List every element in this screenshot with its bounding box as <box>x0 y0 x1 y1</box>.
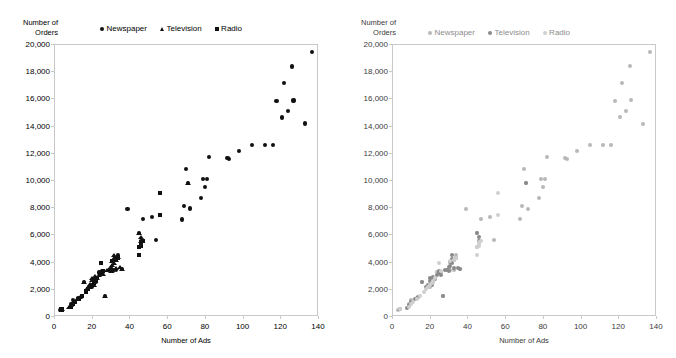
y-axis-tick <box>51 126 54 127</box>
data-point-circle <box>154 238 158 242</box>
x-axis-tick <box>54 316 55 319</box>
data-point-square <box>141 239 145 243</box>
data-point-square <box>95 276 99 280</box>
data-point-circle <box>439 273 443 277</box>
data-point-circle <box>274 99 278 103</box>
data-point-circle <box>458 267 462 271</box>
x-axis-tick <box>656 316 657 319</box>
data-point-triangle <box>102 294 108 298</box>
x-axis-tick <box>505 316 506 319</box>
data-point-circle <box>280 115 284 119</box>
data-point-circle <box>575 149 579 153</box>
data-point-circle <box>207 155 211 159</box>
y-axis-tick-label: 2,000 <box>30 284 50 293</box>
legend-item-radio[interactable]: Radio <box>215 24 242 33</box>
x-axis-tick <box>280 316 281 319</box>
x-axis-tick <box>167 316 168 319</box>
y-axis-tick <box>389 126 392 127</box>
y-axis-tick-label: 20,000 <box>364 40 388 49</box>
x-axis-title: Number of Ads <box>161 336 211 345</box>
data-point-circle <box>141 217 145 221</box>
legend-item-newspaper[interactable]: Newspaper <box>428 28 475 37</box>
data-point-circle <box>541 185 545 189</box>
x-axis-tick-label: 20 <box>87 322 96 331</box>
data-point-circle <box>180 217 184 221</box>
x-axis-tick <box>543 316 544 319</box>
data-point-circle <box>479 239 483 243</box>
y-axis-tick-label: 10,000 <box>364 176 388 185</box>
data-point-square <box>158 213 162 217</box>
y-axis-tick <box>51 44 54 45</box>
data-point-circle <box>496 191 500 195</box>
x-axis-tick <box>243 316 244 319</box>
x-axis-tick-label: 120 <box>274 322 287 331</box>
y-axis-tick <box>51 180 54 181</box>
data-point-square <box>137 253 141 257</box>
data-point-circle <box>526 207 530 211</box>
data-point-circle <box>188 206 192 210</box>
data-point-circle <box>620 81 624 85</box>
y-axis-title: Number of Orders <box>344 18 396 37</box>
y-axis-tick-label: 4,000 <box>368 257 388 266</box>
x-axis-tick-label: 20 <box>425 322 434 331</box>
legend-item-television[interactable]: Television <box>160 24 202 33</box>
data-point-circle <box>291 98 295 102</box>
circle-marker-icon <box>488 31 492 35</box>
y-axis-title: Number of Orders <box>6 18 58 37</box>
legend-label-television: Television <box>494 28 529 37</box>
y-axis-tick <box>51 289 54 290</box>
data-point-square <box>80 294 84 298</box>
x-axis-tick <box>129 316 130 319</box>
right-chart-panel: Number of Orders Newspaper Television Ra… <box>338 0 676 358</box>
y-axis-tick <box>51 234 54 235</box>
legend-label-television: Television <box>166 24 201 33</box>
data-point-square <box>99 261 103 265</box>
y-axis-tick-label: 8,000 <box>30 203 50 212</box>
legend-label-radio: Radio <box>221 24 242 33</box>
figure-root: Number of Orders Newspaper Television Ra… <box>0 0 676 358</box>
data-point-square <box>59 307 63 311</box>
scatter-plot-area[interactable] <box>54 44 318 316</box>
data-point-circle <box>496 213 500 217</box>
x-axis-tick-label: 40 <box>463 322 472 331</box>
data-point-circle <box>303 121 307 125</box>
y-axis-tick <box>389 234 392 235</box>
legend-item-television[interactable]: Television <box>488 28 530 37</box>
y-axis-tick-label: 18,000 <box>364 67 388 76</box>
data-point-circle <box>492 238 496 242</box>
data-point-circle <box>520 204 524 208</box>
legend-item-radio[interactable]: Radio <box>543 28 570 37</box>
y-axis-tick <box>389 180 392 181</box>
x-axis-tick <box>467 316 468 319</box>
y-axis-tick <box>389 289 392 290</box>
data-point-circle <box>613 99 617 103</box>
data-point-square <box>101 269 105 273</box>
data-point-circle <box>203 185 207 189</box>
x-axis-tick-label: 140 <box>311 322 324 331</box>
x-axis-title: Number of Ads <box>499 336 549 345</box>
y-axis-tick-label: 6,000 <box>368 230 388 239</box>
x-axis-tick <box>581 316 582 319</box>
data-point-circle <box>418 294 422 298</box>
left-chart-panel: Number of Orders Newspaper Television Ra… <box>0 0 338 358</box>
y-axis-tick <box>51 262 54 263</box>
data-point-circle <box>475 253 479 257</box>
y-axis-tick <box>389 207 392 208</box>
data-point-circle <box>415 297 419 301</box>
triangle-marker-icon <box>160 27 164 31</box>
y-axis-tick-label: 0 <box>46 312 50 321</box>
scatter-plot-area[interactable] <box>392 44 656 316</box>
data-point-circle <box>290 64 294 68</box>
y-axis-tick-label: 14,000 <box>26 121 50 130</box>
data-point-square <box>158 191 162 195</box>
legend-item-newspaper[interactable]: Newspaper <box>100 24 147 33</box>
chart-legend: Newspaper Television Radio <box>428 28 570 37</box>
x-axis-tick-label: 0 <box>390 322 394 331</box>
y-axis-tick-label: 20,000 <box>26 40 50 49</box>
data-point-square <box>116 256 120 260</box>
data-point-circle <box>447 269 451 273</box>
circle-marker-icon <box>100 27 104 31</box>
x-axis-tick <box>318 316 319 319</box>
data-point-circle <box>543 177 547 181</box>
x-axis-tick <box>430 316 431 319</box>
